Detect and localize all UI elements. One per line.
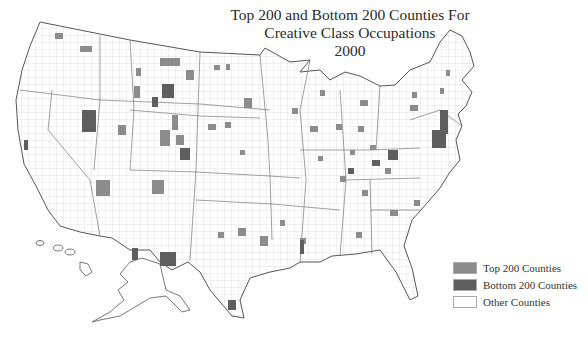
legend-item-other: Other Counties xyxy=(453,293,577,310)
legend-item-top-200: Top 200 Counties xyxy=(453,259,577,276)
legend: Top 200 Counties Bottom 200 Counties Oth… xyxy=(453,259,577,310)
hawaii xyxy=(36,241,92,277)
legend-item-bottom-200: Bottom 200 Counties xyxy=(453,276,577,293)
other-swatch xyxy=(453,296,477,308)
legend-label: Other Counties xyxy=(483,296,550,308)
legend-label: Bottom 200 Counties xyxy=(483,279,577,291)
legend-label: Top 200 Counties xyxy=(483,262,561,274)
top-200-swatch xyxy=(453,262,477,274)
bottom-200-swatch xyxy=(453,279,477,291)
